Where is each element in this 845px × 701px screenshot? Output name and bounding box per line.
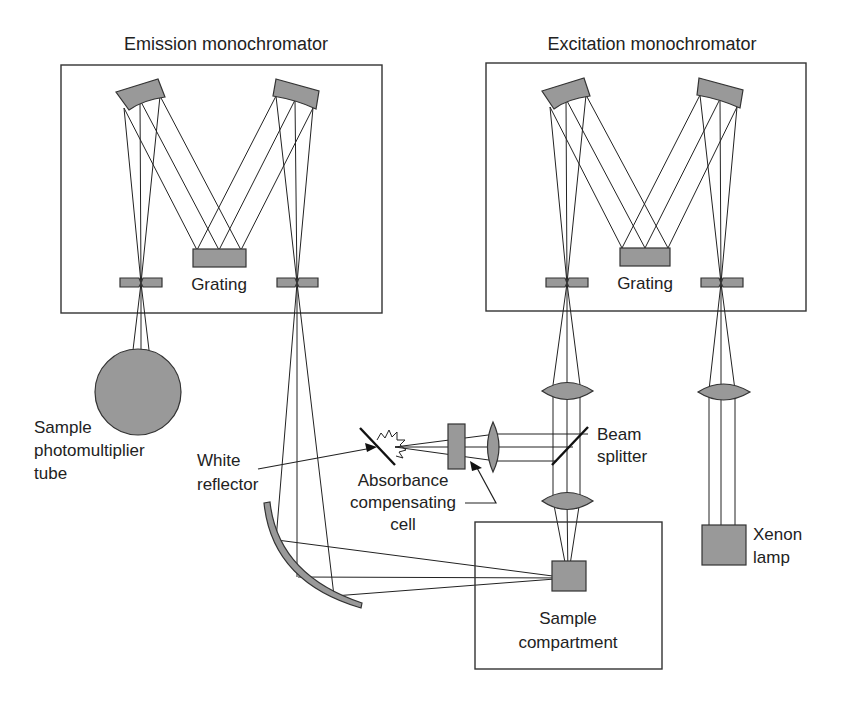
sample-pmt-label-line3: tube xyxy=(34,464,67,483)
sample-pmt-label-line2: photomultiplier xyxy=(34,441,145,460)
emission-rays xyxy=(124,96,334,596)
white-reflector-label-line2: reflector xyxy=(197,475,259,494)
xenon-lamp-label-line1: Xenon xyxy=(753,525,802,544)
sample-pmt-label-line1: Sample xyxy=(34,418,92,437)
emission-right-mirror xyxy=(273,79,319,109)
white-reflector xyxy=(360,428,395,465)
reference-lens xyxy=(488,422,500,472)
emission-grating-label: Grating xyxy=(191,275,247,294)
excitation-grating xyxy=(620,248,670,266)
beam-splitter xyxy=(552,427,588,465)
absorbance-compensating-cell xyxy=(448,424,465,469)
excitation-lower-lens xyxy=(542,493,593,510)
beam-splitter-label-line1: Beam xyxy=(597,425,641,444)
spectrofluorometer-diagram: Emission monochromator Grating xyxy=(0,0,845,701)
curved-collecting-mirror xyxy=(264,502,362,608)
xenon-lens xyxy=(698,384,750,400)
absorbance-label-line3: cell xyxy=(390,515,416,534)
white-reflector-label-line1: White xyxy=(197,451,240,470)
emission-monochromator-title: Emission monochromator xyxy=(124,34,328,54)
absorbance-arrowhead xyxy=(470,461,482,471)
excitation-grating-label: Grating xyxy=(617,274,673,293)
sample-photomultiplier-tube xyxy=(95,349,181,435)
absorbance-leader-line xyxy=(465,466,496,503)
absorbance-label-line1: Absorbance xyxy=(358,471,449,490)
beam-splitter-label-line2: splitter xyxy=(597,447,647,466)
white-reflector-leader-line xyxy=(258,448,372,469)
excitation-rays xyxy=(277,95,737,596)
xenon-lamp-label-line2: lamp xyxy=(753,548,790,567)
sample-cuvette xyxy=(552,561,586,591)
emission-grating xyxy=(193,249,246,267)
excitation-upper-lens xyxy=(542,383,593,400)
excitation-entrance-slit xyxy=(701,278,743,287)
excitation-monochromator-title: Excitation monochromator xyxy=(547,34,756,54)
sample-compartment-label-line2: compartment xyxy=(518,633,617,652)
reflection-starburst-icon xyxy=(377,430,406,458)
xenon-lamp xyxy=(702,525,746,565)
sample-compartment-label-line1: Sample xyxy=(539,609,597,628)
absorbance-label-line2: compensating xyxy=(350,493,456,512)
